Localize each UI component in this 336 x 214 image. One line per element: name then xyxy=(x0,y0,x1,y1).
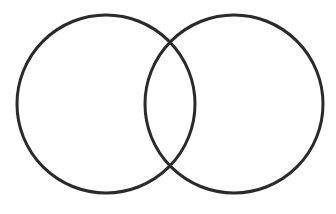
venn-svg xyxy=(0,0,336,214)
left-circle xyxy=(17,15,195,193)
venn-diagram xyxy=(0,0,336,214)
right-circle xyxy=(145,15,323,193)
